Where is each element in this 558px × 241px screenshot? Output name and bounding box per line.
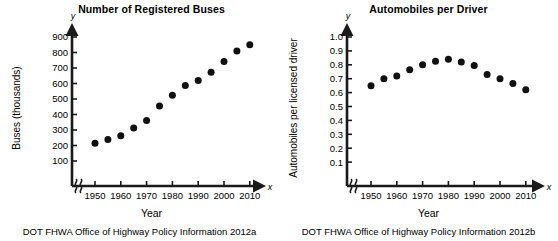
y-tick-label: 600 bbox=[52, 78, 68, 89]
y-tick-label: 0.2 bbox=[330, 143, 343, 154]
data-point bbox=[509, 80, 516, 87]
y-tick-label: 900 bbox=[52, 31, 68, 42]
y-axis-title: Automobiles per licensed driver bbox=[288, 38, 299, 178]
x-tick-label: 1990 bbox=[188, 190, 209, 201]
y-tick-label: 200 bbox=[52, 140, 68, 151]
y-axis-letter: y bbox=[70, 11, 76, 21]
y-tick-label: 0.5 bbox=[330, 101, 343, 112]
data-point bbox=[368, 82, 375, 89]
y-tick-label: 0.6 bbox=[330, 87, 343, 98]
data-point bbox=[233, 47, 240, 54]
y-tick-label: 0.4 bbox=[330, 115, 343, 126]
scatter-plot-registered-buses: 9008007006005004003002001001950196019701… bbox=[0, 0, 279, 205]
data-point-series bbox=[92, 41, 254, 146]
data-point bbox=[458, 59, 465, 66]
x-tick-label: 1970 bbox=[412, 190, 433, 201]
data-point bbox=[419, 61, 426, 68]
x-tick-label: 1980 bbox=[162, 190, 183, 201]
data-point bbox=[117, 132, 124, 139]
data-point bbox=[497, 75, 504, 82]
data-point bbox=[195, 77, 202, 84]
x-tick-label: 1990 bbox=[464, 190, 485, 201]
data-point bbox=[522, 86, 529, 93]
chart-panel-automobiles-per-driver: Automobiles per Driver 1.00.90.80.70.60.… bbox=[279, 0, 558, 241]
y-tick-label: 700 bbox=[52, 62, 68, 73]
data-point bbox=[169, 92, 176, 99]
data-point bbox=[246, 41, 253, 48]
data-point bbox=[143, 117, 150, 124]
data-point bbox=[406, 66, 413, 73]
data-point-series bbox=[368, 56, 530, 94]
data-point bbox=[182, 82, 189, 89]
x-axis-title-left: Year bbox=[0, 207, 279, 219]
x-tick-label: 2000 bbox=[489, 190, 510, 201]
x-tick-label: 1950 bbox=[360, 190, 381, 201]
y-tick-label: 100 bbox=[52, 155, 68, 166]
data-point bbox=[484, 71, 491, 78]
data-point bbox=[221, 58, 228, 65]
y-tick-label: 0.9 bbox=[330, 45, 343, 56]
data-point bbox=[92, 140, 99, 147]
y-tick-label: 800 bbox=[52, 47, 68, 58]
y-tick-label: 0.7 bbox=[330, 73, 343, 84]
y-tick-label: 1.0 bbox=[330, 31, 343, 42]
x-tick-label: 1960 bbox=[386, 190, 407, 201]
source-caption-left: DOT FHWA Office of Highway Policy Inform… bbox=[0, 226, 279, 237]
data-point bbox=[471, 62, 478, 69]
y-tick-label: 0.3 bbox=[330, 129, 343, 140]
y-tick-label: 400 bbox=[52, 109, 68, 120]
data-point bbox=[130, 124, 137, 131]
x-axis-title-right: Year bbox=[279, 207, 558, 219]
x-tick-label: 1980 bbox=[438, 190, 459, 201]
y-tick-label: 0.8 bbox=[330, 59, 343, 70]
data-point bbox=[445, 56, 452, 63]
x-tick-label: 1950 bbox=[84, 190, 105, 201]
data-point bbox=[393, 72, 400, 79]
source-caption-right: DOT FHWA Office of Highway Policy Inform… bbox=[279, 226, 558, 237]
y-tick-label: 300 bbox=[52, 124, 68, 135]
figure-root: Number of Registered Buses 9008007006005… bbox=[0, 0, 558, 241]
chart-panel-registered-buses: Number of Registered Buses 9008007006005… bbox=[0, 0, 279, 241]
x-tick-label: 2010 bbox=[239, 190, 260, 201]
x-tick-label: 2000 bbox=[213, 190, 234, 201]
x-tick-label: 1960 bbox=[110, 190, 131, 201]
y-tick-label: 0.1 bbox=[330, 157, 343, 168]
x-tick-label: 2010 bbox=[515, 190, 536, 201]
data-point bbox=[380, 75, 387, 82]
scatter-plot-automobiles-per-driver: 1.00.90.80.70.60.50.40.30.20.11950196019… bbox=[279, 0, 558, 205]
x-tick-label: 1970 bbox=[136, 190, 157, 201]
y-tick-label: 500 bbox=[52, 93, 68, 104]
x-axis-letter: x bbox=[546, 182, 552, 192]
data-point bbox=[156, 102, 163, 109]
data-point bbox=[208, 69, 215, 76]
data-point bbox=[432, 58, 439, 65]
x-axis-letter: x bbox=[267, 182, 273, 192]
data-point bbox=[104, 136, 111, 143]
y-axis-title: Buses (thousands) bbox=[11, 66, 22, 149]
y-axis-letter: y bbox=[345, 11, 351, 21]
